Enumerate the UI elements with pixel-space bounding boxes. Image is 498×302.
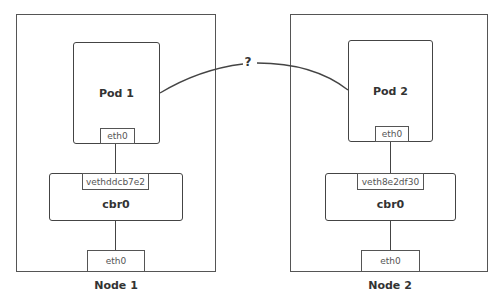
connection-question-label: ? [240,55,256,69]
pod-connection-curve [0,0,498,302]
